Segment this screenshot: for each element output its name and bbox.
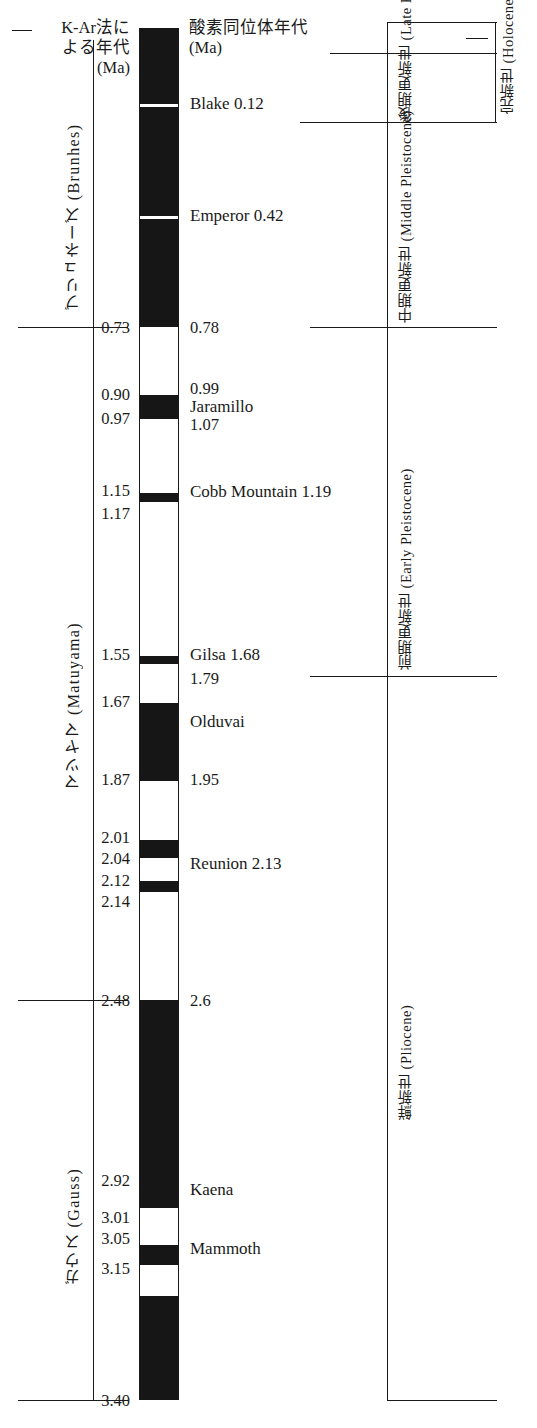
kar-age-9: 2.04	[62, 849, 130, 869]
event-gilsa: Gilsa 1.68	[190, 645, 260, 665]
band-reunion	[140, 881, 178, 892]
event-olduvai: Olduvai	[190, 712, 245, 732]
event-mammoth: Mammoth	[190, 1239, 261, 1259]
epoch-label-middle-pleistocene: 中期更新世 (Middle Pleistocene)	[398, 148, 414, 323]
kar-age-3: 1.15	[62, 481, 130, 501]
event-emperor: Emperor 0.42	[190, 206, 283, 226]
kar-age-8: 2.01	[62, 828, 130, 848]
kar-age-15: 3.05	[62, 1229, 130, 1249]
band-gauss-mid	[140, 1245, 178, 1265]
kar-header-dash	[12, 30, 32, 31]
band-matuyama-6	[140, 858, 178, 881]
band-cobb-mountain	[140, 493, 178, 502]
band-mammoth	[140, 1265, 178, 1296]
iso-age-3: 1.79	[190, 669, 219, 689]
band-jaramillo	[140, 395, 178, 419]
band-brunhes-upper	[140, 28, 178, 104]
holocene-dash	[466, 38, 488, 39]
kar-age-16: 3.15	[62, 1259, 130, 1279]
event-blake: Blake 0.12	[190, 94, 264, 114]
kar-age-2: 0.97	[62, 409, 130, 429]
band-kaena	[140, 1208, 178, 1245]
epoch-label-holocene: 完新世 (Holocene)	[500, 14, 516, 114]
epoch-divider-main	[387, 22, 388, 1400]
band-matuyama-4	[140, 664, 178, 703]
kar-age-6: 1.67	[62, 692, 130, 712]
band-gauss-lower	[140, 1296, 178, 1400]
iso-age-2: 1.07	[190, 415, 219, 435]
kar-age-11: 2.14	[62, 892, 130, 912]
band-brunhes-mid	[140, 107, 178, 216]
iso-age-4: 1.95	[190, 770, 219, 790]
epoch-label-pliocene: 鮮新世 (Pliocene)	[398, 930, 414, 1120]
chron-axis-line	[93, 40, 94, 1400]
band-gilsa	[140, 656, 178, 664]
kar-age-4: 1.17	[62, 504, 130, 524]
event-reunion: Reunion 2.13	[190, 854, 282, 874]
band-matuyama-1	[140, 327, 178, 395]
band-olduvai	[140, 703, 178, 781]
chron-label-brunhes: ブリュネーズ (Brunhes)	[62, 100, 86, 310]
geomagnetic-polarity-timescale-figure: K-Ar法に よる年代 (Ma) 酸素同位体年代 (Ma) ブリュネーズ (Br…	[0, 0, 537, 1428]
epoch-boundary-middle-early	[310, 327, 497, 328]
band-unnamed-normal	[140, 840, 178, 858]
iso-age-5: 2.6	[190, 991, 211, 1011]
band-gauss-upper	[140, 1000, 178, 1208]
kar-age-13: 2.92	[62, 1171, 130, 1191]
band-matuyama-2	[140, 419, 178, 493]
epoch-divider-holocene	[495, 22, 496, 122]
kar-age-10: 2.12	[62, 871, 130, 891]
epoch-label-early-pleistocene: 前期更新世 (Early Pleistocene)	[398, 390, 414, 670]
epoch-frame-bottom	[387, 1400, 497, 1401]
event-cobb-mountain: Cobb Mountain 1.19	[190, 482, 331, 502]
polarity-bar	[139, 28, 179, 1400]
chron-label-matuyama: マツヤマ (Matuyama)	[62, 555, 86, 790]
band-matuyama-5	[140, 781, 178, 840]
kar-age-header: K-Ar法に よる年代 (Ma)	[18, 18, 130, 78]
iso-age-0: 0.78	[190, 318, 219, 338]
kar-age-7: 1.87	[62, 770, 130, 790]
event-kaena: Kaena	[190, 1180, 233, 1200]
kar-age-12: 2.48	[62, 991, 130, 1011]
kar-age-17: 3.40	[62, 1391, 130, 1411]
kar-age-14: 3.01	[62, 1208, 130, 1228]
iso-age-1: 0.99	[190, 379, 219, 399]
band-matuyama-7	[140, 892, 178, 1000]
band-brunhes-lower	[140, 219, 178, 327]
kar-age-0: 0.73	[62, 318, 130, 338]
kar-age-5: 1.55	[62, 645, 130, 665]
band-matuyama-3	[140, 502, 178, 656]
epoch-boundary-early-pliocene	[310, 676, 497, 677]
event-jaramillo: Jaramillo	[190, 397, 253, 417]
kar-age-1: 0.90	[62, 385, 130, 405]
